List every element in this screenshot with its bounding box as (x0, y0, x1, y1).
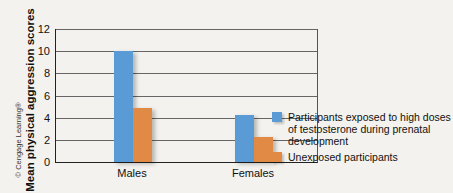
bar-females-0 (235, 115, 254, 162)
legend-swatch-blue (272, 112, 282, 122)
x-category-label: Males (117, 167, 146, 179)
y-tick-label: 0 (34, 156, 50, 168)
y-tick-label: 12 (34, 23, 50, 35)
copyright-notice: © Cengage Learning® (14, 103, 23, 178)
y-tick-label: 10 (34, 45, 50, 57)
gridline (56, 29, 317, 30)
y-tick-label: 8 (34, 67, 50, 79)
y-tick-label: 2 (34, 134, 50, 146)
legend-swatch-orange (272, 152, 282, 162)
bar-males-1 (133, 108, 152, 162)
bar-males-0 (114, 51, 133, 162)
legend-label: Participants exposed to high doses of te… (288, 111, 453, 147)
y-tick-label: 4 (34, 112, 50, 124)
gridline (56, 73, 317, 74)
y-tick-label: 6 (34, 90, 50, 102)
legend-item-exposed: Participants exposed to high doses of te… (272, 111, 453, 147)
legend-item-unexposed: Unexposed participants (272, 151, 453, 163)
x-category-label: Females (232, 167, 274, 179)
legend-label: Unexposed participants (288, 151, 453, 163)
gridline (56, 51, 317, 52)
bar-females-1 (254, 137, 273, 162)
legend: Participants exposed to high doses of te… (272, 111, 453, 167)
gridline (56, 96, 317, 97)
